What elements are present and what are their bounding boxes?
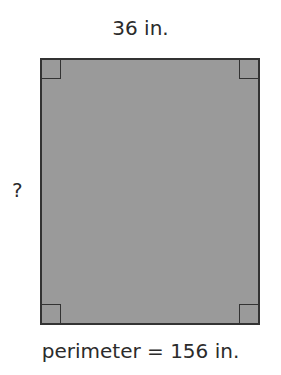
rectangle	[40, 58, 260, 325]
right-angle-marker-icon	[239, 304, 258, 323]
perimeter-label: perimeter = 156 in.	[0, 339, 281, 363]
right-angle-marker-icon	[42, 304, 61, 323]
unknown-length-label: ?	[12, 178, 23, 202]
right-angle-marker-icon	[42, 60, 61, 79]
right-angle-marker-icon	[239, 60, 258, 79]
width-label: 36 in.	[0, 16, 281, 40]
